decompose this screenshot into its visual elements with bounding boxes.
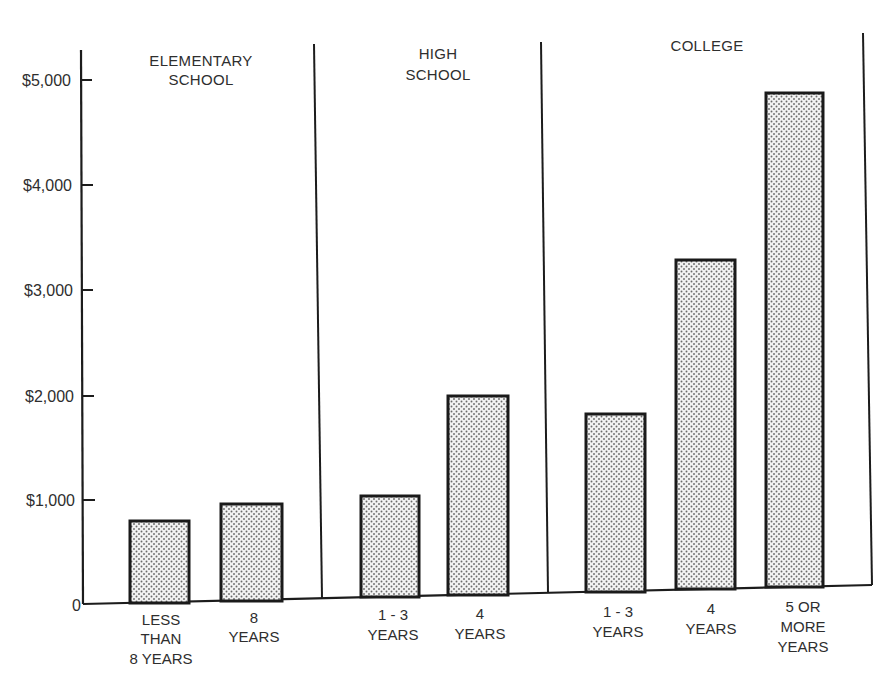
svg-text:4: 4 [476,605,484,622]
bars [130,93,823,603]
y-tick-label: $1,000 [26,492,75,509]
divider-elementary-highschool [314,44,322,598]
bar-chart: $5,000 $4,000 $3,000 $2,000 $1,000 0 ELE… [0,0,894,689]
category-label-hs-1-3: 1 - 3 YEARS [368,606,419,643]
category-label-hs-4: 4 YEARS [455,605,506,642]
svg-text:SCHOOL: SCHOOL [405,66,470,83]
y-tick-label: $4,000 [23,177,72,194]
category-label-less-than-8: LESS THAN 8 YEARS [129,611,192,667]
bar-highschool-4-years [448,396,508,595]
svg-text:YEARS: YEARS [368,626,419,643]
y-tick-label: 0 [72,597,81,614]
right-frame [863,33,872,585]
bar-elementary-less-than-8 [130,521,189,603]
svg-text:YEARS: YEARS [455,625,506,642]
y-axis [81,50,83,604]
bar-elementary-8-years [221,504,282,601]
category-label-8-years: 8 YEARS [229,609,280,645]
svg-text:YEARS: YEARS [593,623,644,640]
svg-text:5 OR: 5 OR [785,598,820,615]
svg-text:4: 4 [707,600,715,617]
svg-text:YEARS: YEARS [778,638,829,655]
svg-text:MORE: MORE [781,618,826,635]
group-header-college: COLLEGE [671,37,744,54]
svg-text:1 - 3: 1 - 3 [378,606,408,623]
category-label-college-1-3: 1 - 3 YEARS [593,603,644,640]
y-tick-label: $5,000 [22,72,71,89]
bar-college-5-or-more [766,93,823,587]
y-tick-labels: $5,000 $4,000 $3,000 $2,000 $1,000 0 [22,72,81,614]
category-label-college-5-or-more: 5 OR MORE YEARS [778,598,829,655]
svg-text:LESS: LESS [142,611,180,628]
category-label-college-4: 4 YEARS [686,600,737,637]
svg-text:ELEMENTARY: ELEMENTARY [149,52,252,69]
divider-highschool-college [541,42,548,593]
bar-highschool-1-3-years [361,496,419,597]
bar-college-1-3-years [586,414,645,592]
svg-text:1 - 3: 1 - 3 [603,603,633,620]
svg-text:8 YEARS: 8 YEARS [129,650,192,667]
y-tick-label: $2,000 [25,388,74,405]
y-tick-label: $3,000 [24,282,73,299]
svg-text:YEARS: YEARS [229,628,280,645]
group-header-highschool: HIGH SCHOOL [405,45,470,83]
svg-text:COLLEGE: COLLEGE [671,37,744,54]
svg-text:8: 8 [250,609,258,626]
svg-text:YEARS: YEARS [686,620,737,637]
bar-college-4-years [676,260,735,589]
svg-text:THAN: THAN [141,630,182,647]
svg-text:SCHOOL: SCHOOL [168,71,233,88]
group-header-elementary: ELEMENTARY SCHOOL [149,52,252,88]
svg-text:HIGH: HIGH [419,45,458,62]
